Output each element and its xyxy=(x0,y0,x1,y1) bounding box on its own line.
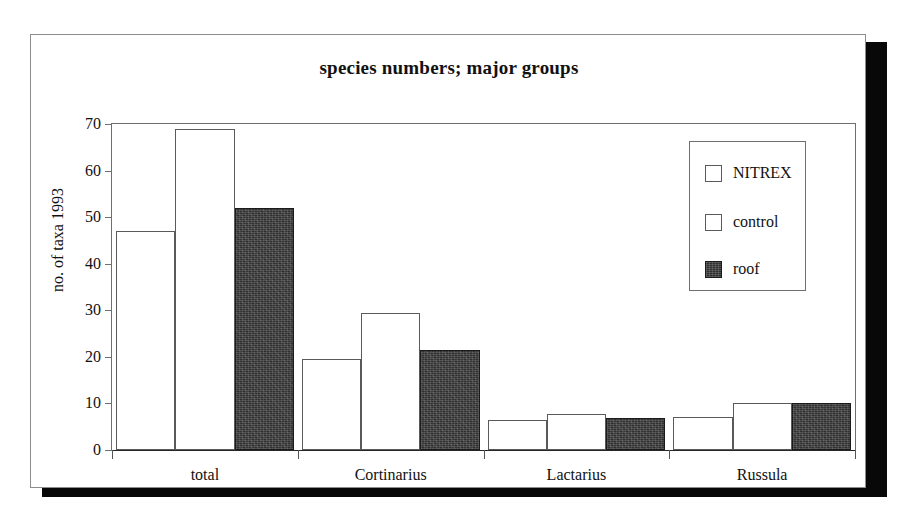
chart-title: species numbers; major groups xyxy=(31,57,867,79)
x-axis-separator-tick xyxy=(112,450,113,459)
x-axis-category-label: Lactarius xyxy=(547,466,607,484)
x-axis-category-label: Cortinarius xyxy=(355,466,427,484)
bar xyxy=(420,350,479,450)
x-axis-separator-tick xyxy=(484,450,485,459)
legend-item[interactable]: control xyxy=(705,213,778,231)
bar xyxy=(361,313,420,450)
legend-item-label: NITREX xyxy=(733,164,792,182)
y-tick-label: 30 xyxy=(85,301,101,319)
y-tick-label: 40 xyxy=(85,255,101,273)
y-tick-mark xyxy=(105,357,112,358)
y-tick-label: 0 xyxy=(93,441,101,459)
bar xyxy=(733,403,792,450)
y-tick-mark xyxy=(105,264,112,265)
chart-card: species numbers; major groups no. of tax… xyxy=(30,34,866,488)
legend-item[interactable]: roof xyxy=(705,260,760,278)
chart-legend: NITREX control roof xyxy=(689,141,806,291)
bar xyxy=(235,208,294,450)
x-axis-separator-tick xyxy=(669,450,670,459)
y-tick-mark xyxy=(105,403,112,404)
y-tick-mark xyxy=(105,217,112,218)
y-tick-mark xyxy=(105,171,112,172)
open-square-icon xyxy=(705,165,722,182)
filled-square-icon xyxy=(705,261,722,278)
y-tick-label: 70 xyxy=(85,115,101,133)
legend-item-label: control xyxy=(733,213,778,231)
x-axis-category-label: Russula xyxy=(737,466,788,484)
y-tick-label: 20 xyxy=(85,348,101,366)
bar xyxy=(673,417,732,450)
bar xyxy=(116,231,175,450)
bar xyxy=(606,418,665,450)
bar xyxy=(792,403,851,450)
bar xyxy=(175,129,234,450)
y-tick-mark xyxy=(105,124,112,125)
y-tick-mark xyxy=(105,450,112,451)
y-tick-label: 60 xyxy=(85,162,101,180)
legend-item[interactable]: NITREX xyxy=(705,164,792,182)
y-axis-title: no. of taxa 1993 xyxy=(49,155,67,325)
bar xyxy=(488,420,547,450)
y-tick-mark xyxy=(105,310,112,311)
legend-item-label: roof xyxy=(733,260,760,278)
x-axis-separator-tick xyxy=(298,450,299,459)
x-axis-category-label: total xyxy=(191,466,219,484)
x-axis-separator-tick xyxy=(855,450,856,459)
bar xyxy=(302,359,361,450)
open-square-icon xyxy=(705,214,722,231)
bar xyxy=(547,414,606,450)
y-tick-label: 50 xyxy=(85,208,101,226)
y-tick-label: 10 xyxy=(85,394,101,412)
